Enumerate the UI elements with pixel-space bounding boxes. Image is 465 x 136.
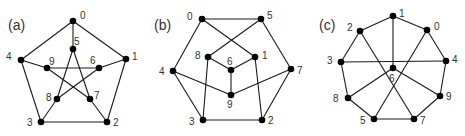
vertex-7 [411, 116, 418, 123]
edge-0-1 [202, 19, 255, 57]
edge-0-4 [427, 30, 446, 61]
vertex-label: 2 [347, 22, 353, 33]
edge-6-1 [231, 57, 255, 70]
petersen-graph-figure: 0123456789(a)0581647932(b)1203468957(c) [0, 0, 465, 136]
edge-3-4 [341, 61, 446, 62]
vertex-2 [259, 117, 266, 124]
vertex-label: 2 [268, 115, 274, 126]
edge-9-7 [231, 69, 291, 95]
vertex-1 [390, 13, 397, 20]
vertex-6 [96, 65, 103, 72]
vertex-5 [371, 116, 378, 123]
graph-panel-b: 0581647932(b) [154, 10, 303, 127]
vertex-8 [345, 95, 352, 102]
vertex-label: 3 [189, 116, 195, 127]
vertex-5 [258, 16, 265, 23]
edge-8-3 [203, 57, 208, 120]
vertex-2 [357, 28, 364, 35]
edge-0-1 [73, 21, 126, 59]
edge-1-6 [99, 59, 126, 68]
edge-1-2 [107, 59, 126, 122]
edge-3-4 [173, 71, 203, 120]
vertex-label: 0 [187, 11, 193, 22]
vertex-label: 5 [267, 10, 273, 21]
vertex-4 [170, 68, 177, 75]
vertex-8 [205, 54, 212, 61]
edge-6-8 [57, 68, 99, 99]
vertex-label: 1 [262, 50, 268, 61]
vertex-label: 4 [6, 51, 12, 62]
edge-6-8 [348, 68, 393, 98]
panel-label: (c) [319, 17, 335, 33]
vertex-label: 7 [297, 65, 303, 76]
edge-2-7 [360, 31, 414, 119]
vertex-label: 9 [446, 91, 452, 102]
vertex-6 [228, 67, 235, 74]
edge-4-9 [173, 71, 231, 95]
vertex-label: 8 [195, 50, 201, 61]
vertex-label: 3 [27, 117, 33, 128]
vertex-3 [38, 119, 45, 126]
edge-9-7 [414, 96, 440, 119]
vertex-7 [87, 96, 94, 103]
vertex-9 [228, 92, 235, 99]
vertex-4 [443, 58, 450, 65]
vertex-0 [199, 16, 206, 23]
edge-1-2 [255, 57, 262, 120]
edge-7-9 [47, 68, 90, 99]
vertex-label: 8 [46, 92, 52, 103]
edge-7-2 [262, 69, 291, 120]
edge-5-7 [261, 19, 291, 69]
edge-0-5 [374, 30, 427, 119]
vertex-label: 1 [399, 8, 405, 19]
edge-6-9 [393, 68, 440, 96]
vertex-label: 9 [49, 56, 55, 67]
vertex-label: 8 [333, 93, 339, 104]
vertex-label: 2 [113, 117, 119, 128]
vertex-label: 4 [452, 54, 458, 65]
vertex-7 [288, 66, 295, 73]
edge-2-3 [341, 31, 360, 62]
vertex-6 [390, 65, 397, 72]
vertex-label: 5 [360, 115, 366, 126]
vertex-label: 6 [389, 73, 395, 84]
edge-3-8 [341, 62, 348, 98]
vertex-8 [54, 96, 61, 103]
vertex-label: 6 [227, 56, 233, 67]
vertex-4 [18, 57, 25, 64]
vertex-3 [200, 117, 207, 124]
vertex-label: 3 [327, 55, 333, 66]
vertex-1 [123, 56, 130, 63]
vertex-0 [70, 18, 77, 25]
vertex-9 [437, 93, 444, 100]
edge-4-0 [21, 21, 73, 60]
edge-1-2 [360, 16, 393, 31]
edge-2-7 [90, 99, 107, 122]
vertex-label: 6 [90, 55, 96, 66]
vertex-3 [338, 59, 345, 66]
vertex-label: 7 [94, 90, 100, 101]
vertex-label: 9 [227, 99, 233, 110]
vertex-label: 4 [159, 66, 165, 77]
edge-5-7 [73, 49, 90, 99]
vertex-2 [104, 119, 111, 126]
panel-label: (b) [154, 17, 171, 33]
vertex-label: 5 [74, 36, 80, 47]
vertex-label: 0 [80, 10, 86, 21]
vertex-0 [424, 27, 431, 34]
edge-5-8 [208, 19, 261, 57]
edge-4-0 [173, 19, 202, 71]
vertex-label: 0 [434, 21, 440, 32]
graph-panel-a: 0123456789(a) [6, 10, 138, 128]
graph-panel-c: 1203468957(c) [319, 8, 458, 126]
panel-label: (a) [8, 17, 25, 33]
edge-3-4 [21, 60, 41, 122]
edge-8-5 [57, 49, 73, 99]
vertex-label: 7 [420, 115, 426, 126]
edge-4-9 [21, 60, 47, 68]
vertex-1 [252, 54, 259, 61]
vertex-label: 1 [132, 51, 138, 62]
